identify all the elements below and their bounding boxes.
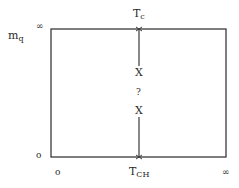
y-axis-label-main: m — [8, 29, 18, 42]
top-label-tc: Tc — [133, 8, 145, 19]
question-marker: ? — [136, 88, 141, 97]
x-axis-right-value: ∞ — [222, 168, 230, 177]
y-axis-bottom-value: o — [36, 151, 41, 160]
upper-x-marker: X — [135, 67, 143, 78]
lower-x-marker: X — [135, 105, 143, 116]
bottom-label-tch: TCH — [129, 166, 149, 177]
y-axis-top-value: ∞ — [36, 22, 44, 31]
bottom-label-sub: CH — [136, 170, 149, 179]
y-axis-label: mq — [8, 30, 24, 41]
y-axis-label-sub: q — [18, 34, 23, 43]
top-label-sub: c — [140, 12, 144, 21]
x-axis-left-value: o — [55, 168, 60, 177]
